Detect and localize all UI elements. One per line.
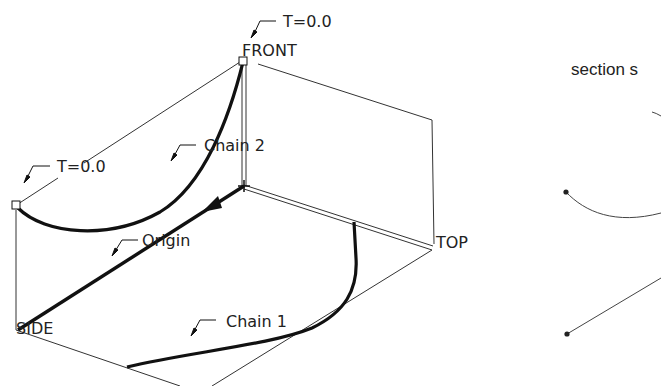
front-plane-outline xyxy=(258,64,434,244)
leader-icons xyxy=(24,21,276,336)
chain2-label: Chain 2 xyxy=(204,136,265,155)
origin-arrow-icon xyxy=(202,196,222,212)
diagram-canvas: T=0.0 FRONT T=0.0 Chain 2 Origin TOP SID… xyxy=(0,0,661,386)
chain1-label: Chain 1 xyxy=(226,312,287,331)
t-left-label: T=0.0 xyxy=(56,157,106,176)
top-plane-label: TOP xyxy=(435,233,468,252)
side-plane-label: SIDE xyxy=(16,319,53,338)
origin-label: Origin xyxy=(142,231,190,250)
vertical-axis xyxy=(242,64,246,186)
top-axis xyxy=(244,185,433,250)
section-title: section s xyxy=(571,60,638,79)
front-plane-label: FRONT xyxy=(242,41,297,60)
left-plane-outline xyxy=(16,62,432,386)
section-sketch xyxy=(566,112,661,334)
section-point-lower[interactable] xyxy=(564,331,569,336)
section-point-upper[interactable] xyxy=(563,189,568,194)
t-point-left-marker[interactable] xyxy=(12,201,20,209)
t-front-label: T=0.0 xyxy=(282,12,332,31)
